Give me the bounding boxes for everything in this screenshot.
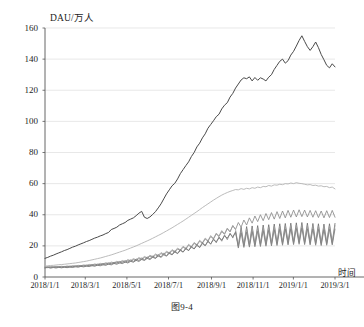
x-tick-label-6: 2019/1/1 [279, 281, 308, 290]
y-tick-label-80: 80 [0, 148, 38, 157]
x-axis-name: 时间 [338, 266, 356, 278]
gridlines [45, 28, 335, 246]
y-tick-label-140: 140 [0, 55, 38, 64]
figure-9-4: DAU/万人 020406080100120140160 时间 2018/1/1… [0, 0, 364, 327]
y-axis-tick-labels: 020406080100120140160 [0, 0, 45, 327]
x-tick-label-3: 2018/7/1 [154, 281, 183, 290]
series-line-total_dau [45, 36, 335, 259]
y-tick-label-120: 120 [0, 86, 38, 95]
y-tick-label-160: 160 [0, 24, 38, 33]
x-tick-label-4: 2018/9/1 [197, 281, 226, 290]
series-line-channel_b [45, 210, 335, 268]
y-tick-label-100: 100 [0, 117, 38, 126]
x-tick-label-1: 2018/3/1 [71, 281, 100, 290]
plot-area [45, 28, 335, 277]
y-axis-title: DAU/万人 [50, 10, 94, 24]
figure-caption: 图9-4 [0, 300, 364, 313]
data-series-group [45, 36, 335, 268]
y-tick-label-40: 40 [0, 210, 38, 219]
series-line-channel_e [45, 228, 335, 268]
series-line-channel_a [45, 183, 335, 266]
y-tick-label-60: 60 [0, 179, 38, 188]
x-tick-label-2: 2018/5/1 [112, 281, 141, 290]
chart-svg [45, 28, 335, 277]
x-tick-label-7: 2019/3/1 [320, 281, 349, 290]
y-tick-label-20: 20 [0, 241, 38, 250]
x-axis-tick-labels: 2018/1/12018/3/12018/5/12018/7/12018/9/1… [0, 281, 364, 299]
x-tick-label-5: 2018/11/1 [237, 281, 270, 290]
x-tick-label-0: 2018/1/1 [30, 281, 59, 290]
